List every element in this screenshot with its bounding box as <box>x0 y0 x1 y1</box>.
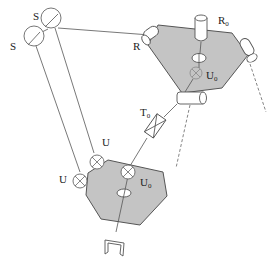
axis-dashed-right <box>250 64 266 112</box>
revolute-joint-bottom <box>177 92 207 104</box>
top-platform-group <box>140 15 259 104</box>
label-t0: T0 <box>140 106 151 120</box>
label-s-upper: S <box>33 10 39 22</box>
label-u-lower: U <box>59 173 67 185</box>
spherical-joint-lower <box>24 26 44 46</box>
leg-right <box>55 28 94 153</box>
label-s-lower: S <box>10 40 16 52</box>
prismatic-leg <box>130 104 177 166</box>
universal-joint-upper <box>90 155 104 169</box>
label-r: R <box>133 40 141 52</box>
universal-joint-u0-bottom <box>121 165 135 179</box>
axis-dashed-middle <box>176 105 190 168</box>
spherical-joint-upper <box>41 8 61 28</box>
link-s-to-r <box>58 28 150 35</box>
leg-left <box>36 46 80 172</box>
gripper <box>105 240 124 256</box>
label-r0: R0 <box>218 14 229 28</box>
label-u-upper: U <box>102 136 110 148</box>
bottom-platform-group <box>73 155 167 232</box>
robot-mechanism-diagram: S S R R0 U0 T0 U U U0 <box>0 0 274 267</box>
universal-joint-lower <box>73 174 87 188</box>
